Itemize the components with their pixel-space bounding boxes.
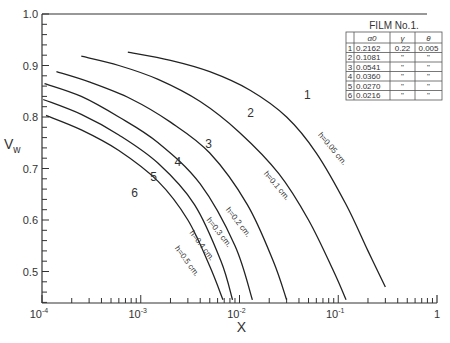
x-tick-label: 1: [434, 308, 440, 320]
curve-number-label: 4: [175, 155, 182, 169]
table-title: FILM No.1.: [369, 20, 418, 31]
table-cell: 0.0270: [356, 82, 381, 91]
x-tick-label: 10-3: [129, 307, 148, 320]
table-cell: ": [427, 72, 430, 81]
curve-number-label: 1: [304, 88, 311, 102]
y-tick-label: 0.5: [23, 266, 38, 278]
curve-1: [128, 52, 386, 287]
table-cell: ": [427, 53, 430, 62]
table-header-cell: α0: [367, 34, 377, 43]
chart: 0.50.60.70.80.91.010-410-310-210-11XVw 1…: [0, 0, 450, 343]
table-cell: 3: [348, 63, 353, 72]
thickness-label: h=0.5 cm.: [173, 244, 201, 278]
curve-number-label: 3: [205, 137, 212, 151]
curve-number-label: 2: [247, 106, 254, 120]
x-tick-label: 10-1: [326, 307, 345, 320]
y-tick-label: 0.8: [23, 111, 38, 123]
table-cell: 2: [348, 53, 353, 62]
table-cell: ": [427, 91, 430, 100]
parameter-table: FILM No.1.α0γθ10.21620.220.00520.1081""3…: [346, 20, 442, 100]
table-cell: 0.0360: [356, 72, 381, 81]
table-cell: 0.22: [395, 44, 411, 53]
table-cell: ": [401, 63, 404, 72]
x-axis-label: X: [237, 319, 247, 335]
table-cell: ": [401, 82, 404, 91]
table-cell: 6: [348, 91, 353, 100]
table-cell: 1: [348, 44, 353, 53]
thickness-label: h=0.2 cm.: [224, 205, 253, 238]
table-cell: 0.005: [418, 44, 439, 53]
table-cell: 5: [348, 82, 353, 91]
curves: [43, 52, 385, 300]
y-tick-label: 0.6: [23, 214, 38, 226]
table-header-cell: γ: [401, 34, 406, 43]
curve-number-label: 5: [150, 170, 157, 184]
y-tick-label: 0.9: [23, 60, 38, 72]
table-cell: 0.2162: [356, 44, 381, 53]
curve-number-label: 6: [131, 186, 138, 200]
table-cell: ": [401, 72, 404, 81]
table-cell: 0.0541: [356, 63, 381, 72]
table-cell: ": [427, 63, 430, 72]
y-axis-label: Vw: [4, 136, 21, 155]
table-cell: 0.1081: [356, 53, 381, 62]
curve-5: [43, 99, 232, 299]
thickness-label: h=0.4 cm.: [188, 229, 216, 263]
y-tick-label: 1.0: [23, 8, 38, 20]
table-cell: ": [401, 91, 404, 100]
y-tick-label: 0.7: [23, 163, 38, 175]
table-cell: 4: [348, 72, 353, 81]
table-cell: ": [401, 53, 404, 62]
table-header-cell: θ: [426, 34, 431, 43]
x-tick-label: 10-4: [30, 307, 49, 320]
table-cell: 0.0216: [356, 91, 381, 100]
curve-labels: 1h=0.05 cm.2h=0.1 cm.3h=0.2 cm.4h=0.3 cm…: [131, 88, 349, 278]
table-cell: ": [427, 82, 430, 91]
